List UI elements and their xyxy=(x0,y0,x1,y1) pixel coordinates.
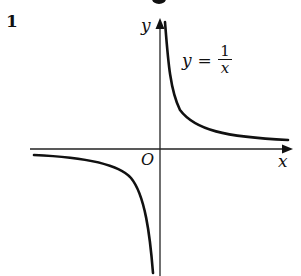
y-axis-arrow-icon xyxy=(156,18,165,29)
fraction-numerator: 1 xyxy=(218,43,232,59)
origin-label: O xyxy=(141,150,154,169)
equation-fraction: 1 x xyxy=(218,43,232,76)
curve-positive-branch xyxy=(165,22,288,140)
graph xyxy=(0,0,301,276)
y-axis-label: y xyxy=(141,15,151,35)
x-axis-label: x xyxy=(278,151,288,171)
equation-annotation: y = 1 x xyxy=(182,43,232,76)
fraction-denominator: x xyxy=(218,59,232,76)
equation-equals: = xyxy=(198,50,212,70)
equation-lhs: y xyxy=(182,50,192,70)
curve-negative-branch xyxy=(34,155,153,273)
